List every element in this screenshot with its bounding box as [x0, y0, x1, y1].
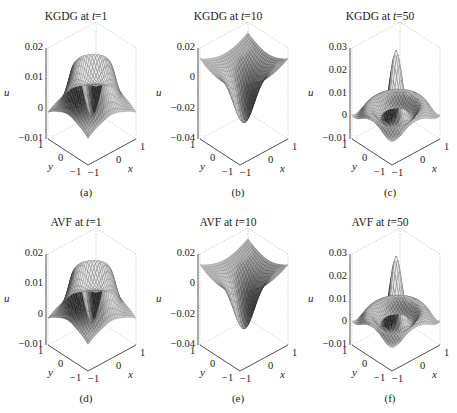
subplot-a: KGDG at t=10.020.010−0.01u−101y−101x(a) — [0, 0, 152, 206]
y-tick-label: 1 — [190, 345, 195, 356]
z-axis-label: u — [156, 86, 162, 98]
x-tick-label: 0 — [116, 154, 121, 165]
y-tick-label: −1 — [70, 166, 81, 177]
x-axis-label: x — [280, 162, 285, 174]
x-tick-label: −1 — [88, 167, 99, 178]
y-tick-label: −1 — [374, 372, 385, 383]
y-tick-label: −1 — [70, 372, 81, 383]
y-tick-label: 0 — [210, 152, 215, 163]
x-tick-label: 1 — [292, 141, 297, 152]
y-tick-label: 1 — [38, 139, 43, 150]
z-tick-label: −0.02 — [171, 102, 195, 113]
subplot-f: AVF at t=500.030.020.010−0.01u−101y−101x… — [304, 206, 456, 412]
x-tick-label: 0 — [116, 360, 121, 371]
y-tick-label: 0 — [362, 152, 367, 163]
x-tick-label: −1 — [88, 373, 99, 384]
x-tick-label: 1 — [444, 347, 449, 358]
y-axis-label: y — [200, 366, 205, 378]
x-tick-label: −1 — [392, 373, 403, 384]
x-axis-label: x — [128, 368, 133, 380]
y-tick-label: 1 — [38, 345, 43, 356]
y-tick-label: 0 — [58, 358, 63, 369]
y-axis-label: y — [48, 160, 53, 172]
z-tick-label: 0.02 — [329, 64, 347, 75]
z-tick-label: 0 — [342, 109, 347, 120]
subplot-caption: (e) — [162, 392, 314, 404]
y-tick-label: −1 — [222, 372, 233, 383]
z-tick-label: 0.02 — [177, 247, 195, 258]
subplot-caption: (b) — [162, 186, 314, 198]
x-tick-label: 0 — [420, 154, 425, 165]
x-tick-label: 0 — [268, 154, 273, 165]
z-tick-label: 0.02 — [177, 41, 195, 52]
x-tick-label: 0 — [420, 360, 425, 371]
y-axis-label: y — [200, 160, 205, 172]
z-tick-label: 0.03 — [329, 41, 347, 52]
x-tick-label: −1 — [392, 167, 403, 178]
x-tick-label: 1 — [444, 141, 449, 152]
x-tick-label: 1 — [292, 347, 297, 358]
z-tick-label: 0 — [190, 71, 195, 82]
x-axis-label: x — [432, 162, 437, 174]
x-axis-label: x — [280, 368, 285, 380]
z-tick-label: 0 — [342, 315, 347, 326]
z-axis-label: u — [156, 292, 162, 304]
x-axis-label: x — [128, 162, 133, 174]
subplot-caption: (c) — [314, 186, 457, 198]
z-tick-label: 0.01 — [329, 87, 347, 98]
z-axis-label: u — [4, 86, 10, 98]
y-tick-label: −1 — [374, 166, 385, 177]
z-tick-label: −0.02 — [171, 308, 195, 319]
subplot-b: KGDG at t=100.020−0.02−0.04u−101y−101x(b… — [152, 0, 304, 206]
z-tick-label: 0.02 — [25, 41, 43, 52]
y-tick-label: 1 — [190, 139, 195, 150]
y-tick-label: 1 — [342, 139, 347, 150]
subplot-e: AVF at t=100.020−0.02−0.04u−101y−101x(e) — [152, 206, 304, 412]
y-tick-label: 0 — [210, 358, 215, 369]
z-tick-label: 0 — [190, 277, 195, 288]
x-tick-label: 0 — [268, 360, 273, 371]
z-tick-label: 0 — [38, 308, 43, 319]
z-axis-label: u — [4, 292, 10, 304]
x-axis-label: x — [432, 368, 437, 380]
y-tick-label: −1 — [222, 166, 233, 177]
z-axis-label: u — [308, 86, 314, 98]
x-tick-label: −1 — [240, 373, 251, 384]
y-tick-label: 0 — [362, 358, 367, 369]
subplot-caption: (a) — [10, 186, 162, 198]
y-tick-label: 0 — [58, 152, 63, 163]
subplot-caption: (d) — [10, 392, 162, 404]
y-axis-label: y — [352, 366, 357, 378]
z-tick-label: 0.01 — [25, 71, 43, 82]
y-axis-label: y — [48, 366, 53, 378]
subplot-caption: (f) — [314, 392, 457, 404]
y-tick-label: 1 — [342, 345, 347, 356]
y-axis-label: y — [352, 160, 357, 172]
x-tick-label: −1 — [240, 167, 251, 178]
subplot-d: AVF at t=10.020.010−0.01u−101y−101x(d) — [0, 206, 152, 412]
z-tick-label: 0.01 — [25, 277, 43, 288]
z-tick-label: 0.01 — [329, 293, 347, 304]
z-axis-label: u — [308, 292, 314, 304]
z-tick-label: 0.02 — [25, 247, 43, 258]
z-tick-label: 0.02 — [329, 270, 347, 281]
subplot-c: KGDG at t=500.030.020.010−0.01u−101y−101… — [304, 0, 456, 206]
x-tick-label: 1 — [140, 347, 145, 358]
x-tick-label: 1 — [140, 141, 145, 152]
z-tick-label: 0 — [38, 102, 43, 113]
z-tick-label: 0.03 — [329, 247, 347, 258]
